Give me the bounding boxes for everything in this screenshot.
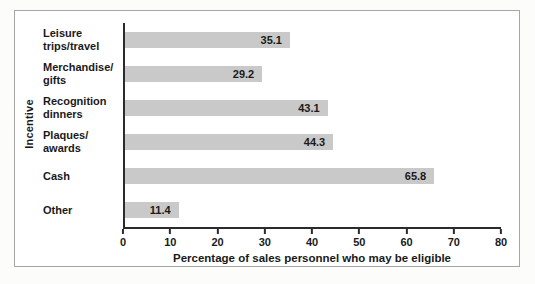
value-label: 44.3 <box>304 136 325 148</box>
bar-track: 29.2 <box>123 57 501 91</box>
value-label: 65.8 <box>405 170 426 182</box>
value-label: 35.1 <box>261 34 282 46</box>
x-axis-ticks: 01020304050607080 <box>123 229 501 251</box>
tick-mark <box>217 229 219 234</box>
tick-label: 20 <box>211 236 223 248</box>
y-axis-title: Incentive <box>23 99 35 149</box>
bar: 11.4 <box>125 202 179 218</box>
tick-label: 50 <box>353 236 365 248</box>
x-tick: 60 <box>400 229 412 248</box>
category-label: Leisure trips/travel <box>43 23 123 57</box>
x-tick: 10 <box>164 229 176 248</box>
bar: 43.1 <box>125 100 328 116</box>
category-label: Cash <box>43 159 123 193</box>
tick-label: 30 <box>259 236 271 248</box>
bar: 65.8 <box>125 168 434 184</box>
x-axis-title: Percentage of sales personnel who may be… <box>123 252 501 264</box>
value-label: 11.4 <box>150 204 171 216</box>
bar-track: 65.8 <box>123 159 501 193</box>
tick-label: 80 <box>495 236 507 248</box>
tick-mark <box>406 229 408 234</box>
chart-frame: Incentive Leisure trips/travel 35.1 Merc… <box>14 10 520 267</box>
bar-track: 35.1 <box>123 23 501 57</box>
tick-mark <box>122 229 124 234</box>
tick-label: 0 <box>120 236 126 248</box>
bar-track: 44.3 <box>123 125 501 159</box>
category-label: Other <box>43 193 123 227</box>
tick-label: 60 <box>400 236 412 248</box>
x-tick: 50 <box>353 229 365 248</box>
x-axis: 01020304050607080 Percentage of sales pe… <box>123 227 501 264</box>
tick-mark <box>453 229 455 234</box>
y-axis-title-strip: Incentive <box>15 11 43 266</box>
category-label: Merchandise/ gifts <box>43 57 123 91</box>
value-label: 43.1 <box>298 102 319 114</box>
tick-label: 40 <box>306 236 318 248</box>
bar-track: 43.1 <box>123 91 501 125</box>
bar-track: 11.4 <box>123 193 501 227</box>
bar: 44.3 <box>125 134 333 150</box>
bar: 35.1 <box>125 32 290 48</box>
x-tick: 30 <box>259 229 271 248</box>
tick-mark <box>358 229 360 234</box>
bar: 29.2 <box>125 66 262 82</box>
x-tick: 40 <box>306 229 318 248</box>
x-tick: 20 <box>211 229 223 248</box>
x-tick: 70 <box>448 229 460 248</box>
tick-mark <box>169 229 171 234</box>
tick-label: 70 <box>448 236 460 248</box>
plot-area: Leisure trips/travel 35.1 Merchandise/ g… <box>43 23 501 227</box>
value-label: 29.2 <box>233 68 254 80</box>
tick-mark <box>500 229 502 234</box>
tick-label: 10 <box>164 236 176 248</box>
figure: Incentive Leisure trips/travel 35.1 Merc… <box>0 0 535 284</box>
tick-mark <box>311 229 313 234</box>
category-label: Recognition dinners <box>43 91 123 125</box>
x-tick: 80 <box>495 229 507 248</box>
x-tick: 0 <box>120 229 126 248</box>
category-label: Plaques/ awards <box>43 125 123 159</box>
tick-mark <box>264 229 266 234</box>
chart-body: Leisure trips/travel 35.1 Merchandise/ g… <box>43 11 519 266</box>
